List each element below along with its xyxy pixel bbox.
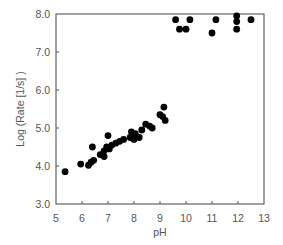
data-point	[187, 16, 194, 23]
y-axis-title: Log (Rate [1/s] )	[14, 71, 26, 146]
data-point	[105, 132, 112, 139]
scatter-chart: 5678910111213 3.04.05.06.07.08.0 pH Log …	[0, 0, 283, 245]
x-tick-label: 10	[180, 212, 192, 224]
data-point	[77, 161, 84, 168]
y-tick-label: 7.0	[35, 46, 50, 58]
x-tick-label: 11	[207, 212, 218, 224]
x-tick-label: 6	[79, 212, 85, 224]
data-point	[176, 26, 183, 33]
data-point	[149, 125, 156, 132]
plot-border	[56, 14, 264, 204]
x-tick-label: 8	[131, 212, 137, 224]
y-tick-label: 6.0	[35, 84, 50, 96]
x-tick-label: 13	[258, 212, 270, 224]
x-tick-label: 12	[232, 212, 244, 224]
data-point	[172, 16, 179, 23]
y-tick-label: 5.0	[35, 122, 50, 134]
data-point	[233, 18, 240, 25]
data-point	[248, 16, 255, 23]
data-point	[138, 126, 145, 133]
data-point	[183, 26, 190, 33]
data-point	[213, 16, 220, 23]
data-point	[161, 104, 168, 111]
data-point	[136, 134, 143, 141]
y-tick-label: 3.0	[35, 198, 50, 210]
x-tick-label: 7	[105, 212, 111, 224]
data-point	[233, 26, 240, 33]
y-tick-label: 4.0	[35, 160, 50, 172]
x-tick-label: 9	[157, 212, 163, 224]
plot-frame	[56, 14, 264, 204]
x-tick-label: 5	[53, 212, 59, 224]
y-tick-label: 8.0	[35, 8, 50, 20]
data-point	[209, 30, 216, 37]
data-point	[90, 157, 97, 164]
x-axis-title: pH	[153, 226, 166, 238]
data-point	[120, 136, 127, 143]
data-point	[162, 117, 169, 124]
data-point	[62, 168, 69, 175]
data-point	[89, 144, 96, 151]
data-points	[62, 13, 255, 176]
